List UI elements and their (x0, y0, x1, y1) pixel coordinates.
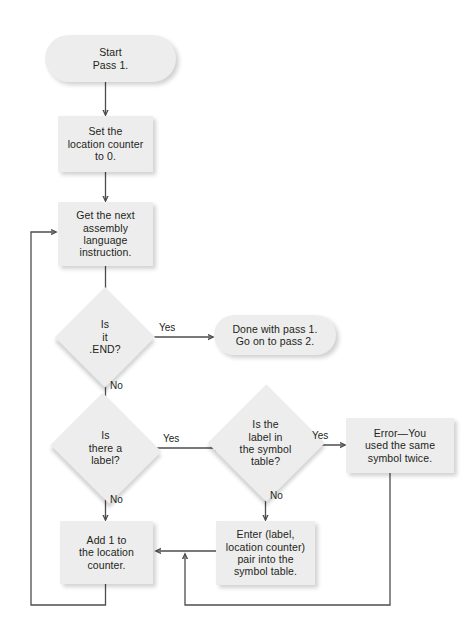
node-done-pass1[interactable]: Done with pass 1. Go on to pass 2. (214, 315, 336, 355)
node-duplicate-symbol-error-label: Error—You used the same symbol twice. (365, 427, 435, 464)
node-enter-pair-into-symbol-table[interactable]: Enter (label, location counter) pair int… (216, 521, 315, 585)
flowchart-canvas: Start Pass 1. Set the location counter t… (0, 0, 469, 642)
node-get-next-instruction[interactable]: Get the next assembly language instructi… (58, 202, 153, 266)
node-label-in-symbol-table-decision-label: Is the label in the symbol table? (207, 418, 324, 468)
node-is-end-decision[interactable]: Is it .END? (55, 287, 155, 387)
edge-label-is-there-a-label-no: No (110, 494, 123, 505)
node-set-counter[interactable]: Set the location counter to 0. (58, 116, 153, 172)
node-set-counter-label: Set the location counter to 0. (68, 125, 144, 162)
edge-label-in-symbol-table-no: No (270, 490, 283, 501)
node-duplicate-symbol-error[interactable]: Error—You used the same symbol twice. (346, 418, 454, 473)
node-is-end-decision-label: Is it .END? (55, 318, 155, 355)
node-start[interactable]: Start Pass 1. (45, 35, 176, 82)
node-enter-pair-into-symbol-table-label: Enter (label, location counter) pair int… (226, 528, 305, 578)
edge-label-is-end-no: No (110, 380, 123, 391)
node-add-one-to-counter-label: Add 1 to the location counter. (79, 534, 134, 571)
node-get-next-instruction-label: Get the next assembly language instructi… (76, 209, 134, 259)
edge-label-is-there-a-label-yes: Yes (163, 433, 179, 444)
node-done-pass1-label: Done with pass 1. Go on to pass 2. (232, 323, 317, 348)
node-is-there-a-label-decision-label: Is there a label? (47, 429, 164, 466)
node-label-in-symbol-table-decision[interactable]: Is the label in the symbol table? (207, 384, 324, 502)
node-start-label: Start Pass 1. (93, 46, 129, 71)
node-is-there-a-label-decision[interactable]: Is there a label? (47, 396, 164, 500)
node-add-one-to-counter[interactable]: Add 1 to the location counter. (60, 521, 153, 584)
edge-label-is-end-yes: Yes (159, 322, 175, 333)
